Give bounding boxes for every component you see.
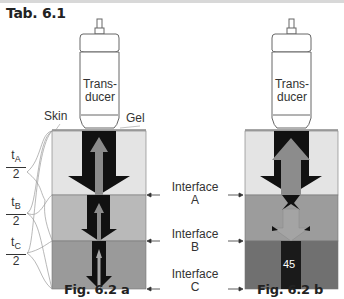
interface-c-label: Interface C [164,268,226,294]
skin-label: Skin [44,110,67,123]
fraction-tb: tB 2 [6,196,26,228]
caption-fig-a: Fig. 6.2 a [64,282,129,297]
value-45-label: 45 [283,258,295,270]
gel-label: Gel [126,112,145,125]
fraction-tc: tC 2 [6,236,26,268]
depth-braces [27,131,52,289]
interface-a-label: Interface A [164,181,226,207]
transducer-a-label: Trans- ducer [80,78,120,104]
caption-fig-b: Fig. 6.2 b [257,282,323,297]
transducer-b [272,19,311,128]
figure-b [245,19,338,289]
interface-b-label: Interface B [164,228,226,254]
ultrasound-diagram [0,0,344,299]
transducer-a [80,19,119,128]
fraction-ta: tA 2 [6,149,26,181]
transducer-b-label: Trans- ducer [272,78,312,104]
